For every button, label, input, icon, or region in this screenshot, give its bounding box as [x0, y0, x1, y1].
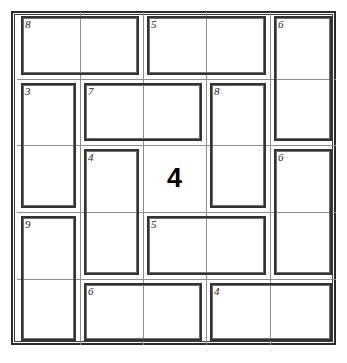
- given-value-r2c2: 4: [143, 165, 206, 192]
- given-values-layer: 4: [17, 12, 336, 345]
- killer-sudoku-puzzle: 856378469564 4: [0, 0, 347, 363]
